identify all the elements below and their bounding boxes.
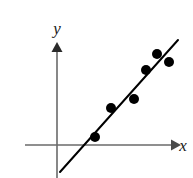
y-axis-label: y bbox=[51, 19, 61, 38]
y-axis bbox=[52, 42, 63, 178]
trendline bbox=[60, 40, 178, 172]
x-axis-label: x bbox=[178, 136, 187, 155]
scatter-plot-figure: x y bbox=[0, 0, 193, 178]
x-axis bbox=[25, 140, 181, 151]
data-point bbox=[90, 132, 100, 142]
data-point bbox=[106, 103, 116, 113]
plot-canvas: x y bbox=[0, 0, 193, 178]
data-point bbox=[152, 49, 162, 59]
data-point bbox=[164, 57, 174, 67]
data-point bbox=[141, 65, 151, 75]
y-axis-arrowhead bbox=[52, 42, 63, 52]
data-points bbox=[90, 49, 174, 142]
data-point bbox=[129, 94, 139, 104]
